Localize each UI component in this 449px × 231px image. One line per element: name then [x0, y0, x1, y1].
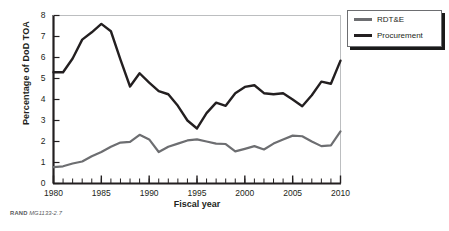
figure-credit: RAND MG1133-2.7	[10, 210, 62, 216]
y-tick-label: 3	[30, 116, 46, 125]
x-tick-label: 2000	[228, 189, 262, 198]
axis-lines	[53, 15, 341, 184]
series-line-procurement	[54, 24, 341, 129]
x-tick-label: 1980	[37, 189, 71, 198]
legend-swatch-procurement	[354, 34, 372, 37]
legend-swatch-rdte	[354, 18, 372, 21]
x-tick-label: 2005	[276, 189, 310, 198]
legend-label-procurement: Procurement	[377, 31, 423, 40]
x-axis-major-ticks	[54, 176, 341, 184]
legend-label-rdte: RDT&E	[377, 15, 404, 24]
credit-id: MG1133-2.7	[29, 210, 62, 216]
x-tick-label: 1990	[132, 189, 166, 198]
y-tick-label: 0	[30, 179, 46, 188]
y-tick-label: 1	[30, 158, 46, 167]
y-tick-label: 6	[30, 53, 46, 62]
x-tick-label: 1985	[84, 189, 118, 198]
credit-brand: RAND	[10, 210, 28, 216]
y-tick-label: 4	[30, 95, 46, 104]
legend-item-rdte: RDT&E	[348, 11, 441, 27]
chart-figure: Percentage of DoD TOA Fiscal year 012345…	[0, 0, 449, 231]
y-tick-label: 8	[30, 11, 46, 20]
y-tick-label: 7	[30, 32, 46, 41]
x-tick-label: 2010	[324, 189, 358, 198]
x-tick-label: 1995	[180, 189, 214, 198]
y-tick-label: 5	[30, 74, 46, 83]
legend-item-procurement: Procurement	[348, 27, 441, 43]
series-line-rdte	[54, 131, 341, 167]
chart-legend: RDT&E Procurement	[347, 10, 442, 47]
y-tick-label: 2	[30, 137, 46, 146]
